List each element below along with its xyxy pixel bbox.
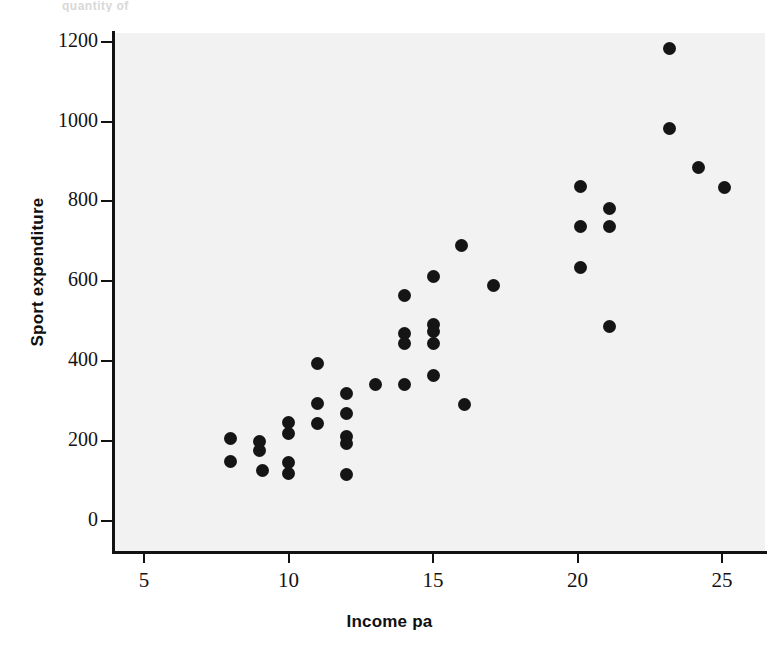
y-tick-label: 200 bbox=[26, 428, 98, 448]
x-tick-label-text: 15 bbox=[403, 568, 463, 593]
data-point bbox=[603, 320, 616, 333]
x-tick-label-text: 10 bbox=[259, 568, 319, 593]
y-tick-label-text: 0 bbox=[34, 508, 98, 531]
data-point bbox=[487, 279, 500, 292]
x-tick-mark bbox=[432, 552, 434, 563]
data-point bbox=[398, 378, 411, 391]
data-point bbox=[398, 289, 411, 302]
y-axis-spine bbox=[112, 31, 115, 554]
x-tick-label-text: 25 bbox=[692, 568, 752, 593]
data-point bbox=[574, 261, 587, 274]
y-tick-mark bbox=[101, 280, 112, 282]
data-point bbox=[458, 398, 471, 411]
y-tick-mark bbox=[101, 200, 112, 202]
data-point bbox=[311, 397, 324, 410]
scatter-plot-figure: quantity of 020040060080010001200 510152… bbox=[0, 0, 779, 653]
x-tick-label: 20 bbox=[548, 568, 608, 594]
y-tick-label: 0 bbox=[26, 508, 98, 528]
x-tick-label: 5 bbox=[114, 568, 174, 594]
x-tick-label: 15 bbox=[403, 568, 463, 594]
y-tick-label: 1000 bbox=[26, 109, 98, 129]
y-axis-title: Sport expenditure bbox=[28, 152, 48, 392]
y-tick-label-text: 1000 bbox=[34, 109, 98, 132]
x-tick-label: 25 bbox=[692, 568, 752, 594]
x-axis-title: Income pa bbox=[0, 612, 779, 632]
data-point bbox=[340, 437, 353, 450]
data-point bbox=[398, 337, 411, 350]
data-point bbox=[603, 220, 616, 233]
y-tick-label: 1200 bbox=[26, 29, 98, 49]
data-point bbox=[427, 270, 440, 283]
y-tick-mark bbox=[101, 440, 112, 442]
data-point bbox=[603, 202, 616, 215]
y-tick-mark bbox=[101, 520, 112, 522]
x-tick-label-text: 20 bbox=[548, 568, 608, 593]
x-tick-mark bbox=[143, 552, 145, 563]
data-point bbox=[340, 387, 353, 400]
data-point bbox=[427, 337, 440, 350]
data-point bbox=[311, 357, 324, 370]
x-axis-spine bbox=[112, 551, 767, 554]
data-point bbox=[574, 220, 587, 233]
x-tick-label-text: 5 bbox=[114, 568, 174, 593]
y-tick-mark bbox=[101, 360, 112, 362]
y-tick-label-text: 1200 bbox=[34, 29, 98, 52]
x-tick-mark bbox=[577, 552, 579, 563]
x-tick-mark bbox=[721, 552, 723, 563]
x-tick-label: 10 bbox=[259, 568, 319, 594]
data-point bbox=[427, 369, 440, 382]
y-tick-label-text: 200 bbox=[34, 428, 98, 451]
data-point bbox=[369, 378, 382, 391]
data-point bbox=[574, 180, 587, 193]
plot-area bbox=[114, 33, 765, 552]
y-tick-mark bbox=[101, 121, 112, 123]
y-tick-mark bbox=[101, 41, 112, 43]
x-tick-mark bbox=[288, 552, 290, 563]
cut-off-caption-fragment: quantity of bbox=[62, 0, 282, 12]
